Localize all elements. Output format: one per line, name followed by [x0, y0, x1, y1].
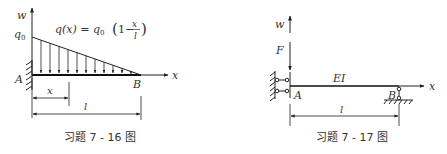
load-formula: q(x) = q0 ( 1− x l ): [55, 19, 147, 41]
q0-label: q0: [14, 28, 26, 42]
point-A-label: A: [293, 89, 302, 102]
svg-text:x: x: [132, 19, 137, 29]
figure-7-17: w F x EI A: [270, 16, 436, 144]
svg-text:l: l: [134, 31, 137, 41]
stiffness-label: EI: [332, 72, 346, 85]
svg-text:(: (: [112, 20, 118, 38]
figure-7-16: w x: [14, 8, 179, 144]
svg-text:q(x) = q0: q(x) = q0: [55, 23, 105, 37]
figure-caption: 习题 7 - 16 图: [64, 131, 136, 144]
figure-caption: 习题 7 - 17 图: [316, 131, 388, 144]
fixed-support-icon: [26, 60, 32, 90]
point-B-label: B: [132, 78, 141, 91]
x-axis-label: x: [429, 80, 436, 93]
diagram-canvas: w x: [0, 0, 447, 154]
dimension-l-label: l: [84, 101, 87, 112]
dimension-l: [290, 104, 399, 126]
point-B-label: B: [387, 89, 396, 102]
w-axis-label: w: [17, 9, 27, 22]
point-A-label: A: [14, 73, 23, 86]
dimension-x: [32, 78, 69, 118]
dimension-l-label: l: [340, 104, 343, 115]
load-envelope: [32, 37, 141, 75]
sliding-support-icon: [270, 71, 290, 101]
w-axis-label: w: [275, 18, 285, 31]
svg-text:): ): [141, 20, 147, 38]
dimension-x-label: x: [47, 85, 53, 96]
force-label: F: [275, 44, 284, 57]
x-axis-label: x: [172, 69, 179, 82]
